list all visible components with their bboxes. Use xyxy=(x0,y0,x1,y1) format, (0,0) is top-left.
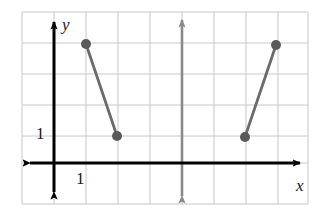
x-axis-unit-label: 1 xyxy=(76,170,85,187)
coordinate-plane-canvas xyxy=(0,0,334,212)
data-point-dot xyxy=(271,40,281,50)
left-branch-segment xyxy=(86,44,117,136)
y-axis-label: y xyxy=(62,16,70,33)
x-axis-label: x xyxy=(296,177,304,194)
data-point-dot xyxy=(112,131,122,141)
data-point-dot xyxy=(240,132,250,142)
y-axis-unit-label: 1 xyxy=(36,125,45,142)
data-point-dot xyxy=(81,39,91,49)
grid-lines xyxy=(22,12,308,204)
right-branch-segment xyxy=(245,45,276,137)
graph-figure: y x 1 1 xyxy=(0,0,334,212)
